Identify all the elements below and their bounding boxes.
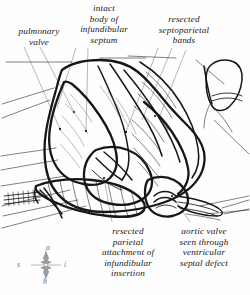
compass-label-anterior: a <box>46 244 50 252</box>
label-resected-septoparietal-bands: resected septoparietal bands <box>141 14 227 46</box>
figure-container: .ink { fill:none; stroke:#17171a; stroke… <box>0 0 250 295</box>
label-intact-body-of-infundibular-septum: intact body of infundibular septum <box>62 3 146 45</box>
compass-label-superior: s <box>17 261 20 269</box>
label-aortic-valve-seen-through-ventricular-septal-defect: aortic valve seen through ventricular se… <box>164 226 244 268</box>
label-resected-parietal-attachment-of-infundibular-insertion: resected parietal attachment of infundib… <box>88 226 168 279</box>
compass-label-inferior: i <box>64 261 66 269</box>
compass-label-posterior: h <box>43 278 47 286</box>
orientation-compass: a i h s <box>18 240 74 290</box>
